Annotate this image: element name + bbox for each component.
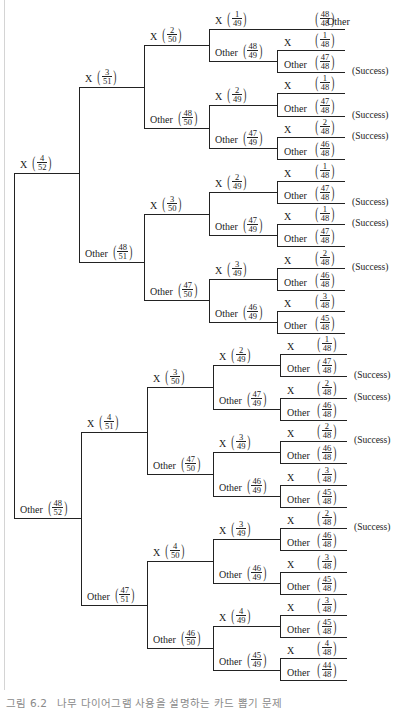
probability-fraction: (148) [316, 335, 338, 352]
leaf-probability: (4548) [316, 618, 338, 635]
branch-line [213, 539, 281, 540]
probability-fraction: (248) [316, 509, 338, 526]
probability-fraction: (248) [314, 118, 336, 135]
branch-line [209, 235, 278, 236]
branch-line [209, 192, 278, 193]
leaf-outcome-name: X [287, 603, 294, 613]
outcome-name: Other [215, 222, 238, 233]
branch-connector [277, 137, 278, 160]
figure-caption: 그림 6.2 나무 다이어그램 사용을 설명하는 카드 뽑기 문제 [6, 695, 282, 710]
outcome-name: X [215, 16, 222, 27]
branch-line [277, 311, 345, 312]
branch-label: Other(4650) [153, 629, 202, 646]
branch-line [14, 518, 82, 519]
probability-fraction: (4648) [314, 271, 336, 288]
branch-line [147, 561, 214, 562]
leaf-probability: (448) [316, 639, 338, 656]
branch-line [280, 398, 347, 399]
branch-line [280, 485, 347, 486]
branch-connector [280, 398, 281, 421]
leaf-outcome-name: Other [284, 147, 307, 157]
branch-line [79, 262, 145, 263]
branch-connector [209, 105, 210, 149]
probability-fraction: (4548) [316, 575, 338, 592]
branch-label: X(349) [219, 520, 252, 537]
branch-connector [213, 626, 214, 671]
branch-connector [209, 29, 210, 62]
leaf-outcome-name: Other [284, 104, 307, 114]
outcome-name: Other [219, 570, 242, 581]
branch-line [280, 441, 347, 442]
branch-line [277, 224, 345, 225]
branch-label: X(249) [215, 86, 248, 103]
probability-fraction: (248) [316, 422, 338, 439]
probability-fraction: (4448) [316, 661, 338, 678]
outcome-name: X [215, 92, 222, 103]
branch-label: Other(4749) [215, 216, 264, 233]
branch-line [79, 87, 145, 88]
probability-fraction: (4748) [314, 184, 336, 201]
branch-line [81, 605, 148, 606]
leaf-outcome-name: Other [284, 321, 307, 331]
probability-fraction: (348) [316, 553, 338, 570]
probability-fraction: (4748) [314, 97, 336, 114]
leaf-outcome-name: X [287, 429, 294, 439]
branch-line [277, 268, 345, 269]
probability-fraction: (348) [314, 292, 336, 309]
probability-fraction: (4749) [242, 216, 264, 233]
outcome-name: X [215, 266, 222, 277]
branch-connector [280, 658, 281, 681]
branch-label: Other(4649) [215, 303, 264, 320]
outcome-name: X [87, 419, 94, 430]
branch-line [280, 528, 347, 529]
leaf-outcome-name: X [287, 342, 294, 352]
branch-line [280, 680, 347, 681]
branch-label: Other(4751) [87, 586, 136, 603]
branch-label: Other(4750) [150, 281, 199, 298]
outcome-name: X [219, 352, 226, 363]
leaf-outcome-name: Other [284, 191, 307, 201]
branch-line [277, 93, 345, 94]
branch-connector [280, 441, 281, 464]
branch-line [213, 626, 281, 627]
probability-fraction: (4748) [314, 227, 336, 244]
probability-fraction: (249) [230, 346, 252, 363]
outcome-name: X [85, 74, 92, 85]
probability-fraction: (4649) [246, 477, 268, 494]
branch-line [147, 648, 214, 649]
branch-line [209, 148, 278, 149]
leaf-outcome-name: X [287, 516, 294, 526]
probability-fraction: (350) [161, 195, 183, 212]
leaf-outcome-name: X [287, 646, 294, 656]
outcome-name: X [219, 439, 226, 450]
probability-fraction: (148) [314, 205, 336, 222]
branch-label: Other(4849) [215, 42, 264, 59]
branch-line [277, 159, 345, 160]
probability-fraction: (4751) [114, 586, 136, 603]
leaf-probability: (4648) [316, 531, 338, 548]
caption-text: 나무 다이어그램 사용을 설명하는 카드 뽑기 문제 [57, 697, 282, 709]
branch-line [277, 181, 345, 182]
branch-label: Other(4850) [150, 109, 199, 126]
leaf-probability: (4548) [316, 575, 338, 592]
leaf-probability: (348) [316, 466, 338, 483]
outcome-name: X [219, 526, 226, 537]
success-marker: (Success) [352, 262, 388, 272]
probability-fraction: (450) [164, 542, 186, 559]
branch-connector [144, 214, 145, 301]
probability-fraction: (4648) [316, 401, 338, 418]
leaf-probability: (348) [316, 553, 338, 570]
probability-fraction: (4750) [180, 455, 202, 472]
probability-fraction: (149) [226, 10, 248, 27]
outcome-name: X [153, 548, 160, 559]
success-marker: (Success) [354, 370, 390, 380]
branch-connector [277, 311, 278, 334]
branch-line [147, 474, 214, 475]
probability-fraction: (449) [230, 607, 252, 624]
probability-fraction: (4648) [316, 531, 338, 548]
branch-connector [277, 50, 278, 73]
outcome-name: X [215, 179, 222, 190]
branch-label: X(249) [219, 346, 252, 363]
leaf-outcome-name: X [284, 125, 291, 135]
probability-fraction: (4848) [314, 10, 336, 27]
